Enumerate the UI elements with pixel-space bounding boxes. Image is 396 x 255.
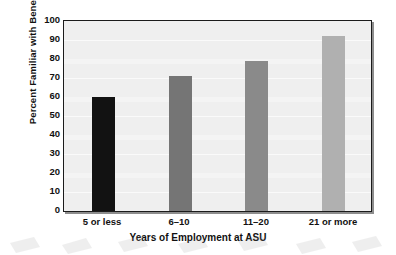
y-axis-tick: 80 xyxy=(30,53,60,63)
x-axis-tick: 5 or less xyxy=(83,216,122,227)
bar xyxy=(92,97,115,211)
y-axis-tick: 30 xyxy=(30,148,60,158)
bar-chart-figure: Percent Familiar with Benefit 0102030405… xyxy=(0,0,396,255)
plot-area-wrapper xyxy=(63,20,372,212)
y-axis-tick: 20 xyxy=(30,167,60,177)
bar xyxy=(245,61,268,211)
y-axis-tick-labels: 0102030405060708090100 xyxy=(30,16,60,212)
x-axis-label: Years of Employment at ASU xyxy=(0,232,396,243)
bar xyxy=(169,76,192,211)
x-axis-tick: 6–10 xyxy=(168,216,189,227)
x-axis-tick-labels: 5 or less6–1011–2021 or more xyxy=(63,216,372,230)
bar xyxy=(322,36,345,211)
y-axis-tick: 10 xyxy=(30,186,60,196)
bar-series xyxy=(64,21,371,211)
y-axis-tick: 100 xyxy=(30,15,60,25)
y-axis-tick: 70 xyxy=(30,72,60,82)
y-axis-tick: 50 xyxy=(30,110,60,120)
x-axis-tick: 11–20 xyxy=(243,216,269,227)
y-axis-tick: 90 xyxy=(30,34,60,44)
y-axis-tick: 40 xyxy=(30,129,60,139)
y-axis-tick: 60 xyxy=(30,91,60,101)
x-axis-tick: 21 or more xyxy=(309,216,358,227)
plot-area xyxy=(63,20,372,212)
y-axis-tick: 0 xyxy=(30,205,60,215)
